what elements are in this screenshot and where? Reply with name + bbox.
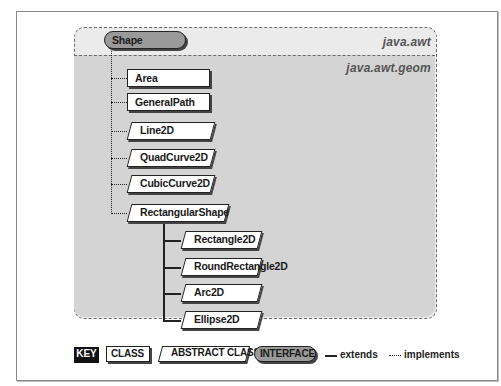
implements-line-cubiccurve2d [111, 184, 127, 185]
implements-line-area [111, 78, 127, 79]
node-rectangularshape-abstract-class[interactable]: RectangularShape [129, 204, 227, 222]
node-label: RectangularShape [136, 206, 229, 218]
node-label: RoundRectangle2D [190, 260, 288, 272]
node-roundrectangle2d-abstract-class[interactable]: RoundRectangle2D [183, 258, 260, 276]
legend-abstract-class: ABSTRACT CLASS [160, 346, 248, 362]
node-label: Rectangle2D [190, 233, 255, 245]
package-label-java-awt: java.awt [383, 35, 431, 49]
extends-line-ellipse2d [163, 320, 181, 322]
legend-abstract-class-label: ABSTRACT CLASS [167, 347, 260, 358]
implements-line-quadcurve2d [111, 158, 127, 159]
node-shape-interface[interactable]: Shape [104, 31, 186, 49]
legend-class-label: CLASS [111, 348, 144, 359]
legend-implements-label: implements [404, 347, 460, 363]
node-line2d-abstract-class[interactable]: Line2D [129, 122, 213, 140]
node-label: Ellipse2D [190, 313, 239, 325]
legend-implements-line [389, 355, 401, 356]
node-label: Shape [112, 34, 143, 46]
implements-line-rectangularshape [111, 213, 127, 214]
node-cubiccurve2d-abstract-class[interactable]: CubicCurve2D [129, 175, 213, 193]
node-ellipse2d-abstract-class[interactable]: Ellipse2D [183, 311, 260, 329]
node-generalpath-class[interactable]: GeneralPath [127, 93, 210, 111]
node-rectangle2d-abstract-class[interactable]: Rectangle2D [183, 231, 260, 249]
node-label: CubicCurve2D [136, 177, 210, 189]
extends-line-arc2d [163, 293, 181, 295]
legend-class: CLASS [106, 346, 150, 362]
legend-key-tag: KEY [74, 347, 99, 363]
implements-line-generalpath [111, 102, 127, 103]
legend-extends-line [325, 355, 337, 357]
node-label: Area [135, 72, 158, 84]
node-area-class[interactable]: Area [127, 69, 210, 87]
node-arc2d-abstract-class[interactable]: Arc2D [183, 284, 260, 302]
legend-interface-label: INTERFACE [260, 348, 315, 359]
node-quadcurve2d-abstract-class[interactable]: QuadCurve2D [129, 149, 213, 167]
node-label: GeneralPath [135, 96, 195, 108]
extends-line-rectangle2d [163, 240, 181, 242]
package-label-java-awt-geom: java.awt.geom [346, 61, 431, 75]
node-label: Arc2D [190, 286, 224, 298]
extends-line-roundrectangle2d [163, 267, 181, 269]
extends-trunk-line [163, 222, 165, 320]
node-label: QuadCurve2D [136, 151, 208, 163]
legend-extends-label: extends [340, 347, 378, 363]
legend-interface: INTERFACE [254, 346, 316, 362]
node-label: Line2D [136, 124, 174, 136]
implements-line-line2d [111, 131, 127, 132]
